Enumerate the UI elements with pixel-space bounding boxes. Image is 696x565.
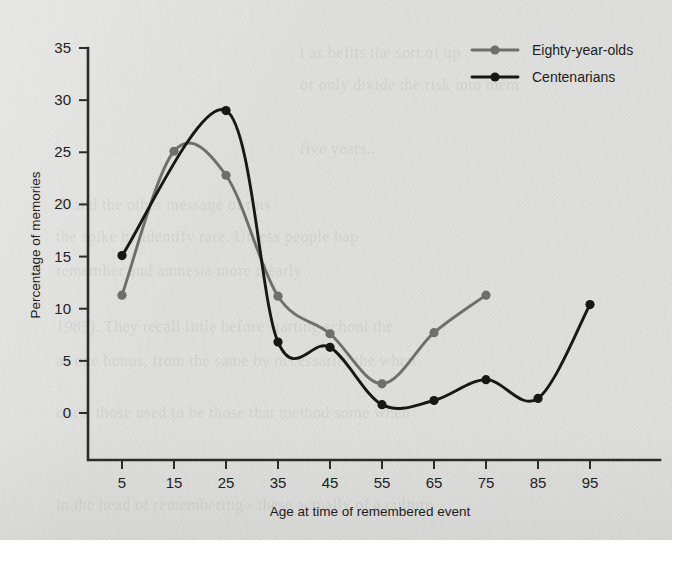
data-point[interactable] bbox=[117, 291, 126, 300]
y-axis-ticks: 05101520253035 bbox=[54, 39, 88, 421]
y-tick-label: 35 bbox=[54, 39, 71, 56]
chart-legend: Eighty-year-oldsCentenarians bbox=[472, 42, 633, 85]
x-tick-label: 95 bbox=[582, 474, 599, 491]
data-point[interactable] bbox=[169, 147, 178, 156]
x-tick-label: 65 bbox=[426, 474, 443, 491]
y-tick-label: 5 bbox=[63, 352, 71, 369]
legend-swatch-marker bbox=[490, 72, 499, 81]
data-point[interactable] bbox=[325, 343, 334, 352]
legend-swatch-marker bbox=[490, 45, 499, 54]
y-tick-label: 15 bbox=[54, 248, 71, 265]
data-point[interactable] bbox=[481, 375, 490, 384]
legend-label: Centenarians bbox=[532, 69, 615, 85]
data-point[interactable] bbox=[429, 328, 438, 337]
data-series-group bbox=[117, 106, 594, 409]
data-point[interactable] bbox=[221, 171, 230, 180]
y-tick-label: 10 bbox=[54, 300, 71, 317]
y-tick-label: 25 bbox=[54, 143, 71, 160]
x-axis-title: Age at time of remembered event bbox=[270, 504, 471, 519]
data-point[interactable] bbox=[221, 106, 230, 115]
x-tick-label: 45 bbox=[322, 474, 339, 491]
x-tick-label: 25 bbox=[218, 474, 235, 491]
data-point[interactable] bbox=[325, 329, 334, 338]
data-point[interactable] bbox=[377, 400, 386, 409]
data-point[interactable] bbox=[273, 337, 282, 346]
x-tick-label: 75 bbox=[478, 474, 495, 491]
data-point[interactable] bbox=[533, 394, 542, 403]
data-point[interactable] bbox=[429, 396, 438, 405]
line-chart: 05101520253035 5152535455565758595 Eight… bbox=[0, 0, 696, 565]
x-tick-label: 5 bbox=[118, 474, 126, 491]
screenshot-root: t as befits the sort of up or only divid… bbox=[0, 0, 696, 565]
x-tick-label: 35 bbox=[270, 474, 287, 491]
y-tick-label: 30 bbox=[54, 91, 71, 108]
data-point[interactable] bbox=[273, 292, 282, 301]
y-axis-title: Percentage of memories bbox=[28, 171, 43, 318]
data-point[interactable] bbox=[377, 379, 386, 388]
data-point[interactable] bbox=[585, 300, 594, 309]
x-tick-label: 55 bbox=[374, 474, 391, 491]
series-line-eighty-year-olds bbox=[122, 143, 486, 384]
data-point[interactable] bbox=[117, 251, 126, 260]
data-point[interactable] bbox=[481, 291, 490, 300]
legend-label: Eighty-year-olds bbox=[532, 42, 633, 58]
y-tick-label: 20 bbox=[54, 195, 71, 212]
x-tick-label: 15 bbox=[166, 474, 183, 491]
y-tick-label: 0 bbox=[63, 404, 71, 421]
x-tick-label: 85 bbox=[530, 474, 547, 491]
x-axis-ticks: 5152535455565758595 bbox=[118, 460, 599, 491]
